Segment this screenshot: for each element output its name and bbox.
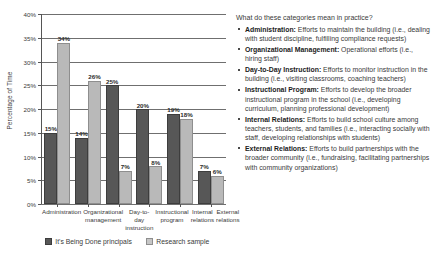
definition-item: Administration: Efforts to maintain the … [236,25,430,44]
bar-value-label: 15% [45,125,57,132]
legend-swatch-icon [146,238,153,245]
legend-label: Research sample [156,238,209,245]
x-axis-labels: AdministrationOrganizational managementD… [41,208,226,233]
bar-value-label: 26% [88,73,100,80]
legend-swatch-icon [45,238,52,245]
bar-value-label: 19% [167,106,179,113]
legend-item: Research sample [146,238,209,245]
bar: 7% [198,171,211,204]
y-axis-tick-label: 35% [24,34,36,41]
y-axis-tick-label: 25% [24,82,36,89]
y-axis-tick-label: 30% [24,58,36,65]
side-panel-title: What do these categories mean in practic… [236,13,430,22]
bar: 19% [167,114,180,204]
definition-item: Instructional Program: Efforts to develo… [236,85,430,113]
bar-value-label: 18% [180,111,192,118]
bullet-icon [238,69,240,71]
definition-item: Organizational Management: Operational e… [236,45,430,64]
bar: 26% [88,81,101,205]
x-axis-label: Organizational management [82,208,124,233]
bullet-icon [238,147,240,149]
bar: 34% [57,43,70,205]
definition-term: Administration: [245,26,296,33]
bar: 20% [136,109,149,204]
bar-value-label: 14% [75,130,87,137]
bar-group: 20%8% [134,14,165,204]
bar-value-label: 20% [137,102,149,109]
bullet-icon [238,48,240,50]
chart-page: Percentage of Time 0%5%10%15%20%25%30%35… [0,0,436,264]
bar-groups: 15%34%14%26%25%7%20%8%19%18%7%6% [42,14,226,204]
definition-term: External Relations: [245,145,307,152]
bar: 7% [119,171,132,204]
legend-item: It's Being Done principals [45,238,132,245]
definition-list: Administration: Efforts to maintain the … [236,25,430,172]
y-axis-title: Percentage of Time [2,0,16,200]
bar-group: 15%34% [42,14,73,204]
plot-area-wrapper: 0%5%10%15%20%25%30%35%40% 15%34%14%26%25… [17,14,226,204]
bar-group: 7%6% [195,14,226,204]
bar: 18% [180,119,193,205]
x-axis-label: Administration [41,208,82,233]
bullet-icon [238,89,240,91]
definition-term: Day-to-Day Instruction: [245,66,321,73]
definition-term: Internal Relations: [245,116,305,123]
y-axis-tick-label: 20% [24,106,36,113]
bar-value-label: 7% [121,163,130,170]
y-axis-title-label: Percentage of Time [6,71,13,129]
bullet-icon [238,28,240,30]
y-axis-tick-label: 15% [24,129,36,136]
x-axis-label: Day-to-day instruction [124,208,154,233]
plot-area: 15%34%14%26%25%7%20%8%19%18%7%6% [41,14,226,204]
bar-value-label: 7% [200,163,209,170]
bar-group: 19%18% [165,14,196,204]
y-axis-tick-label: 0% [27,201,36,208]
bar-value-label: 6% [213,168,222,175]
bar-value-label: 8% [151,159,160,166]
bar: 6% [211,176,224,205]
bar-chart: Percentage of Time 0%5%10%15%20%25%30%35… [0,0,232,264]
y-axis-tick-label: 40% [24,11,36,18]
y-axis-tick-label: 5% [27,177,36,184]
y-axis-ticks: 0%5%10%15%20%25%30%35%40% [17,14,39,204]
y-axis-tick-label: 10% [24,153,36,160]
bar-group: 14%26% [73,14,104,204]
x-axis-label: Internal relations [190,208,215,233]
category-definitions-panel: What do these categories mean in practic… [232,0,436,264]
bar: 8% [149,166,162,204]
y-axis-tickmark [38,204,41,205]
bar: 15% [44,133,57,204]
definition-item: External Relations: Efforts to build par… [236,144,430,172]
bar: 25% [106,85,119,204]
definition-item: Internal Relations: Efforts to build sch… [236,115,430,143]
gridline [41,204,226,205]
legend-label: It's Being Done principals [55,238,131,245]
bar-value-label: 25% [106,78,118,85]
bar: 14% [75,138,88,205]
definition-term: Instructional Program: [245,86,319,93]
definition-item: Day-to-Day Instruction: Efforts to monit… [236,65,430,84]
definition-term: Organizational Management: [245,46,339,53]
bar-value-label: 34% [58,35,70,42]
bullet-icon [238,118,240,120]
x-axis-label: Instructional program [154,208,189,233]
chart-legend: It's Being Done principalsResearch sampl… [24,238,230,245]
bar-group: 25%7% [103,14,134,204]
